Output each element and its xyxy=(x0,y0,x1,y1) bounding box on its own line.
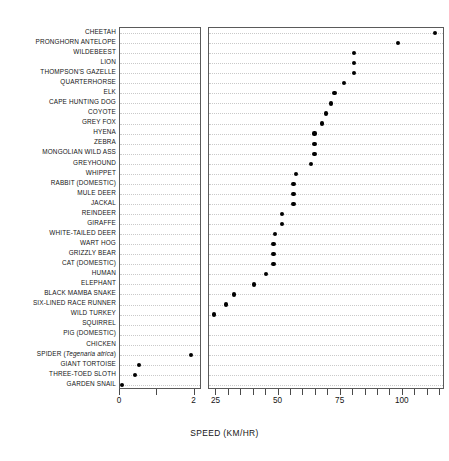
axis-tick xyxy=(194,389,195,395)
data-point xyxy=(312,152,316,156)
grid-row xyxy=(209,93,443,94)
grid-row xyxy=(209,33,443,34)
grid-row xyxy=(209,224,443,225)
axis-tick-label: 2 xyxy=(191,396,196,405)
category-label: GRIZZLY BEAR xyxy=(0,250,116,256)
axis-tick xyxy=(265,389,266,395)
grid-row xyxy=(209,154,443,155)
grid-row xyxy=(120,194,200,195)
data-point xyxy=(280,212,284,216)
grid-row xyxy=(120,103,200,104)
grid-row xyxy=(120,144,200,145)
axis-tick xyxy=(365,389,366,395)
category-label: GIANT TORTOISE xyxy=(0,361,116,367)
axis-tick-label: 50 xyxy=(273,396,282,405)
grid-row xyxy=(120,274,200,275)
axis-tick xyxy=(414,389,415,395)
data-point xyxy=(342,81,346,85)
category-label: HUMAN xyxy=(0,270,116,276)
data-point xyxy=(312,142,316,146)
category-label: CHICKEN xyxy=(0,341,116,347)
grid-row xyxy=(120,204,200,205)
category-label: GREYHOUND xyxy=(0,160,116,166)
grid-row xyxy=(209,284,443,285)
grid-row xyxy=(209,325,443,326)
data-point xyxy=(332,91,336,95)
category-label: RABBIT (DOMESTIC) xyxy=(0,180,116,186)
category-label: WART HOG xyxy=(0,240,116,246)
grid-row xyxy=(120,224,200,225)
data-point xyxy=(312,131,316,135)
data-point xyxy=(352,61,356,65)
data-point xyxy=(133,373,137,377)
data-point xyxy=(271,242,275,246)
category-label: MONGOLIAN WILD ASS xyxy=(0,149,116,155)
category-label: QUARTERHORSE xyxy=(0,79,116,85)
grid-row xyxy=(120,375,200,376)
grid-row xyxy=(209,134,443,135)
grid-row xyxy=(209,204,443,205)
grid-row xyxy=(209,124,443,125)
grid-row xyxy=(120,124,200,125)
grid-row xyxy=(120,284,200,285)
category-label: CHEETAH xyxy=(0,29,116,35)
axis-tick xyxy=(315,389,316,395)
category-label: JACKAL xyxy=(0,200,116,206)
axis-tick xyxy=(240,389,241,395)
category-label: COYOTE xyxy=(0,109,116,115)
grid-row xyxy=(209,274,443,275)
category-label: PRONGHORN ANTELOPE xyxy=(0,39,116,45)
grid-row xyxy=(209,83,443,84)
category-label: THREE-TOED SLOTH xyxy=(0,371,116,377)
data-point xyxy=(291,182,295,186)
data-point xyxy=(352,71,356,75)
category-label: CAPE HUNTING DOG xyxy=(0,99,116,105)
axis-tick xyxy=(302,389,303,395)
data-point xyxy=(324,111,328,115)
category-label: BLACK MAMBA SNAKE xyxy=(0,290,116,296)
grid-row xyxy=(120,113,200,114)
grid-row xyxy=(120,43,200,44)
category-label: ELEPHANT xyxy=(0,280,116,286)
axis-tick xyxy=(389,389,390,395)
grid-row xyxy=(120,154,200,155)
grid-row xyxy=(120,214,200,215)
data-point xyxy=(352,51,356,55)
grid-row xyxy=(120,325,200,326)
data-point xyxy=(396,41,400,45)
data-point xyxy=(433,31,437,35)
category-label: SIX-LINED RACE RUNNER xyxy=(0,300,116,306)
category-label: LION xyxy=(0,59,116,65)
axis-tick xyxy=(253,389,254,395)
category-label: WILDEBEEST xyxy=(0,49,116,55)
grid-row xyxy=(120,93,200,94)
data-point xyxy=(280,222,284,226)
data-point xyxy=(137,363,141,367)
axis-tick-label: 25 xyxy=(211,396,220,405)
data-point xyxy=(232,292,236,296)
axis-tick xyxy=(278,389,279,395)
grid-row xyxy=(209,184,443,185)
category-label: HYENA xyxy=(0,129,116,135)
data-point xyxy=(291,202,295,206)
category-label: GREY FOX xyxy=(0,119,116,125)
category-label: MULE DEER xyxy=(0,190,116,196)
grid-row xyxy=(209,244,443,245)
x-axis-ticks-left xyxy=(119,389,201,395)
data-point xyxy=(320,121,324,125)
chart-panel-left-low-speed xyxy=(119,27,201,389)
category-label-column: CHEETAHPRONGHORN ANTELOPEWILDEBEESTLIONT… xyxy=(0,27,116,389)
category-label: ZEBRA xyxy=(0,139,116,145)
data-point xyxy=(264,272,268,276)
grid-row xyxy=(120,83,200,84)
axis-tick xyxy=(327,389,328,395)
axis-tick xyxy=(352,389,353,395)
grid-row xyxy=(209,365,443,366)
category-label: GARDEN SNAIL xyxy=(0,381,116,387)
grid-row xyxy=(209,335,443,336)
data-point xyxy=(252,282,256,286)
data-point xyxy=(271,262,275,266)
data-point xyxy=(189,353,193,357)
grid-row xyxy=(120,234,200,235)
grid-row xyxy=(209,214,443,215)
